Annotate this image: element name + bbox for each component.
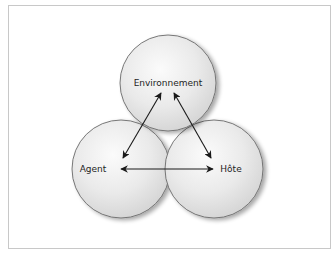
hote-label: Hôte bbox=[220, 164, 242, 174]
agent-label: Agent bbox=[80, 164, 107, 174]
relationship-diagram: Environnement Agent Hôte bbox=[0, 0, 334, 256]
environnement-label: Environnement bbox=[134, 78, 203, 88]
